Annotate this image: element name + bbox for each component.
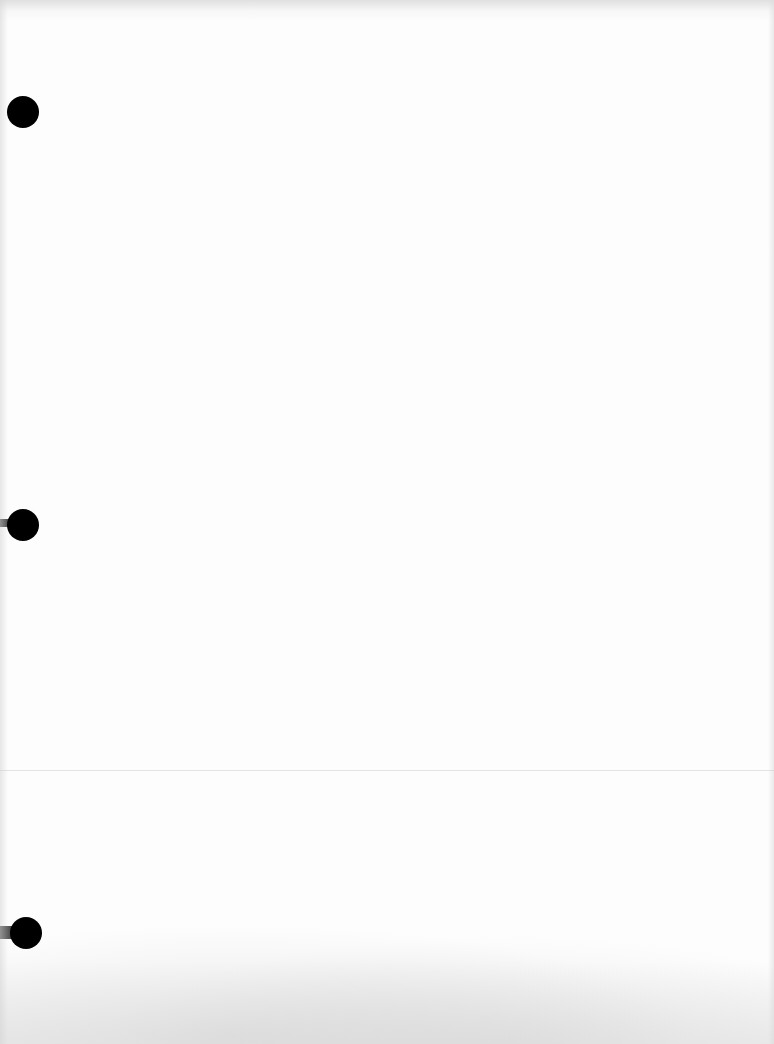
scan-noise-top	[0, 0, 774, 22]
punch-hole-top	[7, 96, 39, 128]
page-edge-right	[768, 0, 774, 1044]
punch-hole-middle	[7, 509, 39, 541]
scanned-page	[0, 0, 774, 1044]
punch-hole-bottom	[10, 917, 42, 949]
scan-artifact-line	[0, 770, 774, 771]
scan-noise-bottom	[0, 904, 774, 1044]
